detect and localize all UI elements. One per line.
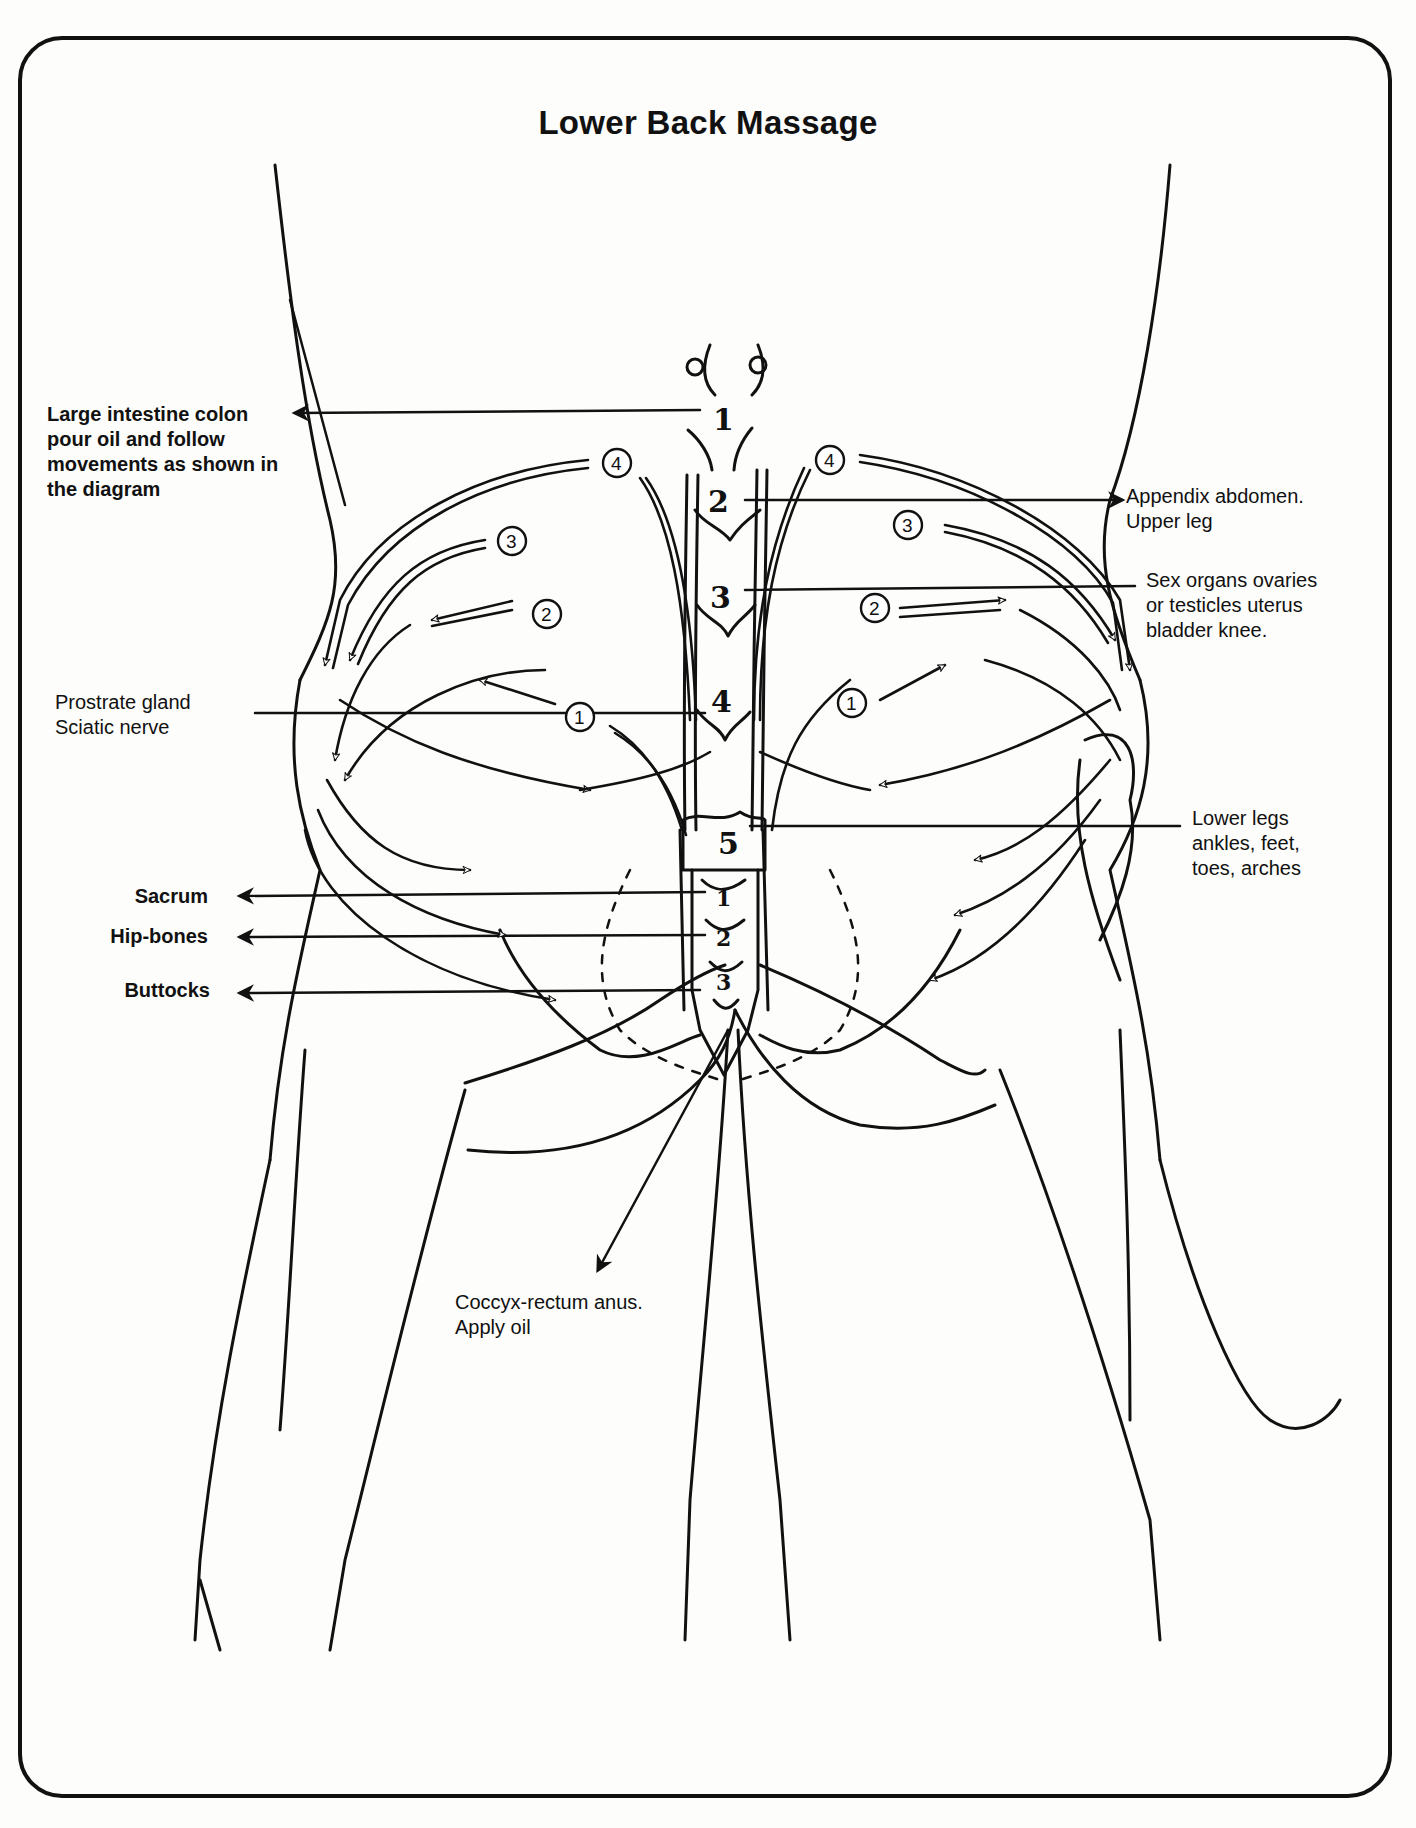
step-3-right: 3 xyxy=(902,515,913,536)
torso-outline xyxy=(195,165,1340,1650)
label-sex-organs: Sex organs ovaries or testicles uterus b… xyxy=(1146,568,1317,643)
label-sacrum: Sacrum xyxy=(100,884,208,909)
label-appendix: Appendix abdomen. Upper leg xyxy=(1126,484,1304,534)
spine-number-2: 2 xyxy=(708,484,729,519)
spine-number-1: 1 xyxy=(713,402,734,437)
step-3-left: 3 xyxy=(506,531,517,552)
step-2-right: 2 xyxy=(869,598,880,619)
label-coccyx: Coccyx-rectum anus. Apply oil xyxy=(455,1290,643,1340)
label-buttocks: Buttocks xyxy=(90,978,210,1003)
spine-number-4: 4 xyxy=(711,684,732,719)
sacrum-number-3: 3 xyxy=(716,969,731,995)
step-2-left: 2 xyxy=(541,604,552,625)
sacrum-number-1: 1 xyxy=(716,885,731,911)
sacrum-number-2: 2 xyxy=(716,925,731,951)
step-4-left: 4 xyxy=(611,453,622,474)
label-prostrate: Prostrate gland Sciatic nerve xyxy=(55,690,191,740)
step-1-left: 1 xyxy=(574,707,585,728)
circled-steps-left: 4 3 2 1 xyxy=(498,449,631,731)
label-large-intestine: Large intestine colon pour oil and follo… xyxy=(47,402,278,502)
spine-number-5: 5 xyxy=(718,826,739,861)
label-hip-bones: Hip-bones xyxy=(90,924,208,949)
label-lower-legs: Lower legs ankles, feet, toes, arches xyxy=(1192,806,1301,881)
leader-lines xyxy=(240,300,1180,1270)
step-4-right: 4 xyxy=(824,450,835,471)
circled-steps-right: 4 3 2 1 xyxy=(816,446,922,717)
step-1-right: 1 xyxy=(846,693,857,714)
spine-number-3: 3 xyxy=(710,580,731,615)
scapula-marks xyxy=(687,345,766,395)
lower-back-illustration: 1 2 3 4 5 1 2 3 4 3 2 1 4 3 2 1 xyxy=(0,0,1416,1828)
page: Lower Back Massage xyxy=(0,0,1416,1828)
massage-stroke-paths xyxy=(305,455,1130,1000)
